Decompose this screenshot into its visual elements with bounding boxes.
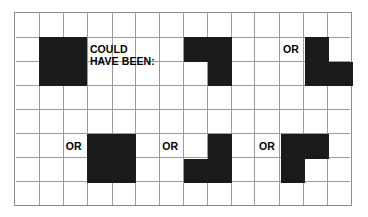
square-tetromino-bottom-left-cell	[112, 134, 136, 159]
j-tetromino-bottom-right-cell	[281, 159, 305, 183]
j-tetromino-top-middle-cell	[208, 62, 232, 86]
j-tetromino-bottom-right-cell	[305, 134, 329, 159]
square-tetromino-bottom-left-cell	[87, 159, 112, 183]
caption-could-have-been: COULD HAVE BEEN:	[90, 43, 155, 68]
square-tetromino-bottom-left-cell	[87, 134, 112, 159]
or-label-4: OR	[259, 141, 275, 152]
j-tetromino-top-middle-cell	[208, 37, 232, 62]
square-tetromino-top-left-cell	[39, 62, 63, 86]
square-tetromino-top-left-cell	[63, 62, 87, 86]
or-label-1: OR	[283, 44, 299, 55]
s-tetromino-bottom-middle-cell	[208, 159, 232, 183]
s-tetromino-bottom-middle-cell	[184, 159, 208, 183]
or-label-2: OR	[66, 141, 82, 152]
or-label-3: OR	[162, 141, 178, 152]
puzzle-figure: OROROROR COULD HAVE BEEN:	[0, 0, 368, 217]
caption-line-2: HAVE BEEN:	[90, 55, 155, 68]
grid-board: OROROROR COULD HAVE BEEN:	[14, 12, 352, 206]
j-tetromino-bottom-right-cell	[281, 134, 305, 159]
j-tetromino-top-middle-cell	[184, 37, 208, 62]
caption-line-1: COULD	[90, 43, 155, 56]
s-tetromino-top-right-cell	[305, 37, 329, 62]
square-tetromino-bottom-left-cell	[112, 159, 136, 183]
square-tetromino-top-left-cell	[63, 37, 87, 62]
square-tetromino-top-left-cell	[39, 37, 63, 62]
s-tetromino-bottom-middle-cell	[208, 134, 232, 159]
s-tetromino-top-right-cell	[305, 62, 329, 86]
s-tetromino-top-right-cell	[329, 62, 353, 86]
